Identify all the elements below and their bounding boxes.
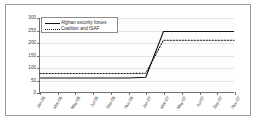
x-axis-label: Sep-06 xyxy=(106,96,117,110)
x-axis-label: Nov-06 xyxy=(124,96,135,110)
y-axis-label: 100 xyxy=(28,66,36,71)
legend-label: Coalition and ISAF xyxy=(61,26,99,32)
legend-entry-coalition-and-isaf: Coalition and ISAF xyxy=(44,26,115,32)
y-axis-label: 250 xyxy=(28,28,36,33)
x-axis-tick xyxy=(40,92,41,95)
legend-swatch-dotted-line-icon xyxy=(44,26,61,32)
x-axis-label: Nov-07 xyxy=(230,96,241,110)
x-axis-tick xyxy=(235,92,236,95)
y-axis-label: 200 xyxy=(28,41,36,46)
x-axis-label: May-06 xyxy=(71,96,82,110)
x-axis-label: Jul-07 xyxy=(196,96,206,108)
x-axis-tick xyxy=(93,92,94,95)
series-line-afghan-security-forces xyxy=(40,32,234,78)
x-axis-tick xyxy=(164,92,165,95)
chart-legend: Afghan security forces Coalition and ISA… xyxy=(41,17,118,33)
x-axis-label: Mar-06 xyxy=(53,96,64,110)
chart-frame: 050100150200250300 Jan-06Mar-06May-06Jul… xyxy=(5,4,251,116)
x-axis-label: Jan-06 xyxy=(36,96,47,109)
x-axis-label: May-07 xyxy=(177,96,188,110)
x-axis-label: Jul-06 xyxy=(90,96,100,108)
series-line-coalition-and-isaf xyxy=(40,40,234,73)
y-axis-label: 150 xyxy=(28,53,36,58)
x-axis-label: Jan-07 xyxy=(142,96,153,109)
y-axis-label: 300 xyxy=(28,16,36,21)
y-axis-label: 0 xyxy=(33,91,36,96)
x-axis-label: Mar-07 xyxy=(160,96,171,110)
x-axis-label: Sep-07 xyxy=(213,96,224,110)
y-axis-label: 50 xyxy=(31,78,36,83)
